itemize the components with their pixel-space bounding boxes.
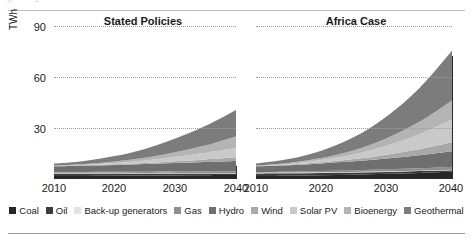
legend-item-label: Geothermal [414,206,464,216]
x-tick-right-2010: 2010 [236,182,276,194]
y-tick-90: 90 [20,21,46,33]
legend-item-label: Gas [184,206,201,216]
legend-swatch-icon [174,207,181,214]
legend-item-label: Coal [19,206,39,216]
gridline-60-right [256,77,452,78]
x-axis-left [54,178,237,179]
x-tick-left-2010: 2010 [34,182,74,194]
legend-item-label: Back-up generators [84,206,167,216]
legend-item[interactable]: Hydro [209,206,244,216]
legend-swatch-icon [344,207,351,214]
stacked-area-svg-stated-policies [54,26,236,178]
legend-swatch-icon [251,207,258,214]
y-axis-label: TWh [8,9,19,30]
legend-item[interactable]: Wind [251,206,283,216]
legend-item[interactable]: Coal [9,206,39,216]
legend-item-label: Wind [261,206,283,216]
chart-legend: CoalOilBack-up generatorsGasHydroWindSol… [0,206,473,216]
gridline-30-right [256,128,452,129]
legend-item-label: Oil [56,206,68,216]
gridline-90-right [256,26,452,27]
legend-swatch-icon [46,207,53,214]
panel-right-edge-right [452,56,453,178]
legend-item[interactable]: Back-up generators [74,206,167,216]
x-axis-right [256,178,453,179]
panel-right-edge-left [236,166,237,179]
legend-swatch-icon [404,207,411,214]
legend-item[interactable]: Solar PV [290,206,338,216]
legend-item-label: Solar PV [300,206,338,216]
legend-item[interactable]: Geothermal [404,206,464,216]
legend-swatch-icon [74,207,81,214]
y-tick-30: 30 [20,123,46,135]
legend-item[interactable]: Oil [46,206,68,216]
x-tick-left-2020: 2020 [94,182,134,194]
gridline-30-left [54,128,236,129]
gridline-90-left [54,26,236,27]
bottom-rule [8,233,465,234]
ghost-text: Figure fragment [0,0,56,2]
legend-swatch-icon [9,207,16,214]
legend-item-label: Bioenergy [354,206,397,216]
x-tick-right-2040: 2040 [431,182,471,194]
plot-area-africa-case [256,26,452,178]
legend-item[interactable]: Bioenergy [344,206,397,216]
x-tick-right-2030: 2030 [366,182,406,194]
top-rule [8,10,465,11]
stacked-area-svg-africa-case [256,26,452,178]
cropped-text-fragment: Figure fragment [0,0,473,7]
y-tick-60: 60 [20,72,46,84]
gridline-60-left [54,77,236,78]
figure-root: Figure fragment TWh 90 60 30 Stated Poli… [0,0,473,240]
x-tick-left-2030: 2030 [155,182,195,194]
plot-area-stated-policies [54,26,236,178]
legend-item[interactable]: Gas [174,206,201,216]
legend-swatch-icon [209,207,216,214]
legend-item-label: Hydro [219,206,244,216]
x-tick-right-2020: 2020 [301,182,341,194]
legend-swatch-icon [290,207,297,214]
